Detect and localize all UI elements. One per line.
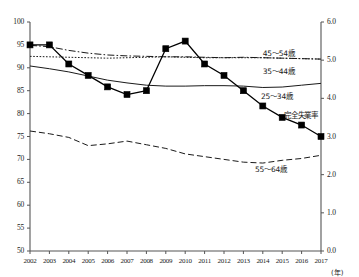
y-axis-right-tick-label: 3.0 xyxy=(327,132,336,141)
data-point-marker xyxy=(46,42,52,48)
y-axis-right-tick-label: 4.0 xyxy=(327,93,336,102)
y-axis-left-tick-label: 70 xyxy=(0,154,24,163)
x-axis-tick-label: 2017 xyxy=(309,257,333,265)
data-point-marker xyxy=(66,61,72,67)
data-point-marker xyxy=(202,61,208,67)
series-label-0: 45～54歳 xyxy=(263,47,295,58)
series-paths xyxy=(30,41,321,163)
data-point-marker xyxy=(124,92,130,98)
series-line-3 xyxy=(30,131,321,163)
y-axis-left-tick-label: 100 xyxy=(0,17,24,26)
data-point-marker xyxy=(318,134,324,140)
y-axis-left-tick-label: 95 xyxy=(0,40,24,49)
y-axis-left-tick-label: 60 xyxy=(0,200,24,209)
x-axis-unit-label: (年) xyxy=(331,267,343,277)
data-point-marker xyxy=(240,88,246,94)
y-axis-left-tick-label: 75 xyxy=(0,132,24,141)
data-point-marker xyxy=(27,42,33,48)
y-axis-right-tick-label: 5.0 xyxy=(327,55,336,64)
data-point-marker xyxy=(260,103,266,109)
chart-container: 50556065707580859095100 0.01.02.03.04.05… xyxy=(0,0,359,277)
y-axis-left-tick-label: 65 xyxy=(0,177,24,186)
y-axis-right-tick-label: 2.0 xyxy=(327,170,336,179)
y-axis-right-tick-label: 1.0 xyxy=(327,208,336,217)
series-label-2: 25～34歳 xyxy=(261,90,293,101)
y-axis-left-tick-label: 55 xyxy=(0,223,24,232)
chart-plot-area xyxy=(0,0,359,277)
series-label-3: 55～64歳 xyxy=(255,163,287,174)
series-label-4: 完全失業率 xyxy=(284,109,318,120)
y-axis-right-tick-label: 0.0 xyxy=(327,246,336,255)
data-point-marker xyxy=(105,84,111,90)
y-axis-right-tick-label: 6.0 xyxy=(327,17,336,26)
y-axis-left-tick-label: 80 xyxy=(0,109,24,118)
data-point-marker xyxy=(299,122,305,128)
data-point-marker xyxy=(221,72,227,78)
y-axis-left-tick-label: 85 xyxy=(0,86,24,95)
data-point-marker xyxy=(182,38,188,44)
data-point-marker xyxy=(85,72,91,78)
series-label-1: 35～44歳 xyxy=(263,65,295,76)
y-axis-left-tick-label: 50 xyxy=(0,246,24,255)
data-point-marker xyxy=(143,88,149,94)
y-axis-left-tick-label: 90 xyxy=(0,63,24,72)
data-point-marker xyxy=(163,46,169,52)
